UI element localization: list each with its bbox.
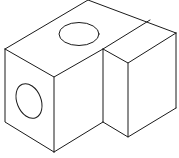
main-block-top-left-edge <box>5 0 88 49</box>
main-block-right-face-bottom <box>54 122 103 152</box>
isometric-part-drawing <box>0 0 179 158</box>
main-block-left-face-outline <box>5 49 54 152</box>
main-block <box>5 0 103 152</box>
step-block-bottom-edge <box>103 108 176 137</box>
step-block-top-divider <box>103 20 150 49</box>
step-block <box>88 0 176 137</box>
step-block-top-back-edge <box>88 0 176 33</box>
top-face-hole <box>59 23 99 46</box>
step-block-top-front-edge <box>103 33 176 63</box>
main-block-top-front-edge <box>5 49 103 77</box>
left-face-hole <box>11 80 47 122</box>
